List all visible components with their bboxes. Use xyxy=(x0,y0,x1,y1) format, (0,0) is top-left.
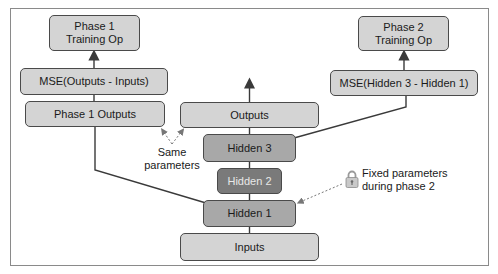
hidden3-box: Hidden 3 xyxy=(203,134,296,162)
phase1-training-op-box: Phase 1 Training Op xyxy=(49,15,140,51)
mse-phase2-box: MSE(Hidden 3 - Hidden 1) xyxy=(330,70,478,96)
mse-phase1-box: MSE(Outputs - Inputs) xyxy=(20,68,168,95)
same-parameters-label: Same parameters xyxy=(142,146,202,172)
inputs-box: Inputs xyxy=(180,233,319,261)
phase1-outputs-box: Phase 1 Outputs xyxy=(25,101,165,127)
outputs-box: Outputs xyxy=(180,102,319,128)
lock-icon xyxy=(345,169,359,189)
hidden1-box: Hidden 1 xyxy=(203,200,296,227)
phase2-training-op-box: Phase 2 Training Op xyxy=(358,16,449,51)
hidden2-box: Hidden 2 xyxy=(217,168,282,194)
fixed-parameters-label: Fixed parameters during phase 2 xyxy=(362,167,482,193)
